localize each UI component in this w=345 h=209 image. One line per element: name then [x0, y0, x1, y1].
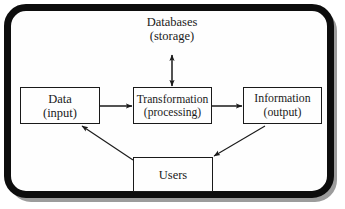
diagram-canvas: Databases (storage) Data (input) Transfo…: [0, 0, 345, 209]
node-transformation-line2: (processing): [144, 106, 201, 119]
node-databases-line2: (storage): [122, 29, 222, 43]
node-data-line1: Data: [48, 92, 72, 106]
node-users-line1: Users: [159, 168, 187, 182]
node-information-line2: (output): [263, 106, 301, 119]
node-transformation-line1: Transformation: [137, 93, 209, 106]
node-information-line1: Information: [254, 92, 310, 105]
node-data-line2: (input): [43, 106, 77, 120]
node-transformation: Transformation (processing): [133, 87, 212, 124]
node-users: Users: [133, 157, 213, 192]
node-databases: Databases (storage): [122, 15, 222, 43]
node-data: Data (input): [20, 87, 100, 124]
node-information: Information (output): [243, 87, 322, 124]
node-databases-line1: Databases: [122, 15, 222, 29]
